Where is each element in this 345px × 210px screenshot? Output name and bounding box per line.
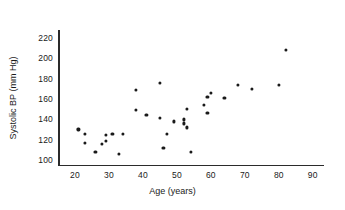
data-point (158, 117, 161, 120)
y-tick-label: 120 (23, 135, 53, 145)
data-point (94, 150, 97, 153)
data-point (145, 114, 148, 117)
y-tick-label: 200 (23, 53, 53, 63)
data-point (277, 83, 280, 86)
data-point (206, 112, 209, 115)
data-point (162, 146, 165, 149)
data-point (101, 142, 104, 145)
data-point (182, 118, 185, 121)
data-point (186, 108, 189, 111)
x-axis-title: Age (years) (0, 186, 345, 196)
data-point (202, 104, 205, 107)
data-point (84, 141, 87, 144)
x-tick-label: 60 (196, 170, 226, 180)
data-point (135, 109, 138, 112)
data-point (186, 126, 189, 129)
x-axis-tick-labels: 2030405060708090 (0, 170, 345, 184)
data-point (104, 133, 107, 136)
x-tick-label: 70 (230, 170, 260, 180)
data-point (111, 132, 114, 135)
data-point (172, 120, 175, 123)
y-tick-label: 220 (23, 33, 53, 43)
data-point (165, 132, 168, 135)
x-tick-label: 20 (60, 170, 90, 180)
data-point (135, 88, 138, 91)
data-point (118, 152, 121, 155)
data-point (236, 83, 239, 86)
data-point (189, 150, 192, 153)
x-tick-label: 30 (94, 170, 124, 180)
y-tick-label: 100 (23, 155, 53, 165)
x-tick-label: 90 (298, 170, 328, 180)
data-point (104, 139, 107, 142)
x-tick-label: 50 (162, 170, 192, 180)
y-tick-label: 180 (23, 74, 53, 84)
data-point (182, 122, 185, 125)
y-tick-label: 160 (23, 94, 53, 104)
data-point (250, 87, 253, 90)
data-point (223, 96, 226, 99)
data-point (206, 95, 209, 98)
y-tick-label: 140 (23, 114, 53, 124)
data-point (284, 49, 287, 52)
data-point (209, 91, 212, 94)
data-point (121, 132, 124, 135)
x-tick-label: 80 (264, 170, 294, 180)
data-point (84, 132, 87, 135)
data-point (158, 81, 161, 84)
data-point (77, 128, 80, 131)
scatter-plot-figure: 100120140160180200220 2030405060708090 A… (0, 0, 345, 210)
y-axis-title: Systolic BP (mm Hg) (8, 28, 18, 168)
x-tick-label: 40 (128, 170, 158, 180)
plot-data-area (58, 30, 323, 165)
